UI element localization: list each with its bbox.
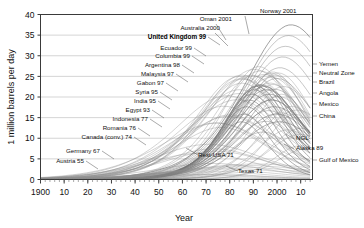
x-tick-label: 60 (178, 187, 188, 197)
series-label: Australia 2000 (180, 24, 220, 31)
y-axis-label: 1 million barrels per day (6, 49, 16, 145)
y-tick-label: 30 (25, 51, 35, 61)
y-tick-label: 5 (30, 154, 35, 164)
y-tick-label: 10 (25, 133, 35, 143)
series-label: India 95 (134, 97, 157, 104)
y-tick-label: 40 (25, 10, 35, 20)
series-label: Malaysia 97 (141, 70, 175, 77)
x-tick-label: 80 (225, 187, 235, 197)
series-label: Alaska 89 (296, 144, 324, 151)
x-tick-label: 70 (201, 187, 211, 197)
series-label: Yemen (319, 60, 339, 67)
x-axis-label: Year (175, 213, 193, 223)
series-label: Texas 71 (238, 167, 263, 174)
series-label: Angola (319, 89, 339, 96)
series-label: Egypt 93 (126, 106, 151, 113)
series-label: Neutral Zone (319, 69, 355, 76)
x-tick-label: 90 (249, 187, 259, 197)
series-label: Ecuador 99 (160, 44, 192, 51)
series-label: United Kingdom 99 (148, 33, 207, 41)
chart-container: 0510152025303540 19001020304050607080902… (0, 0, 364, 228)
series-label: Germany 67 (66, 147, 101, 154)
y-tick-label: 0 (30, 175, 35, 185)
series-label: Mexico (319, 100, 339, 107)
series-label: Romania 76 (103, 124, 137, 131)
x-tick-label: 40 (130, 187, 140, 197)
series-label: Indonesia 77 (113, 115, 149, 122)
series-label: Gabon 97 (137, 79, 165, 86)
series-label: Norway 2001 (260, 7, 297, 14)
x-tick-label: 2000 (268, 187, 287, 197)
series-label: Austria 55 (56, 157, 84, 164)
series-label: Rest-USA 71 (198, 151, 234, 158)
production-curves-chart: 0510152025303540 19001020304050607080902… (0, 0, 364, 228)
y-tick-label: 25 (25, 72, 35, 82)
x-tick-label: 20 (83, 187, 93, 197)
y-tick-label: 35 (25, 30, 35, 40)
x-tick-label: 1900 (31, 187, 50, 197)
series-label: Columbia 99 (155, 52, 190, 59)
series-label: Canada (conv.) 74 (82, 133, 133, 140)
x-tick-label: 10 (59, 187, 69, 197)
series-label: Oman 2001 (200, 15, 233, 22)
series-label: Syria 95 (135, 88, 158, 95)
series-label: China (319, 112, 336, 119)
x-tick-label: 10 (296, 187, 306, 197)
x-tick-label: 30 (107, 187, 117, 197)
series-label: Brazil (319, 78, 334, 85)
y-tick-label: 20 (25, 92, 35, 102)
x-tick-label: 50 (154, 187, 164, 197)
series-label: Gulf of Mexico (319, 156, 359, 163)
y-tick-label: 15 (25, 113, 35, 123)
series-label: Argentina 98 (145, 61, 181, 68)
series-label: NGL (296, 134, 309, 141)
